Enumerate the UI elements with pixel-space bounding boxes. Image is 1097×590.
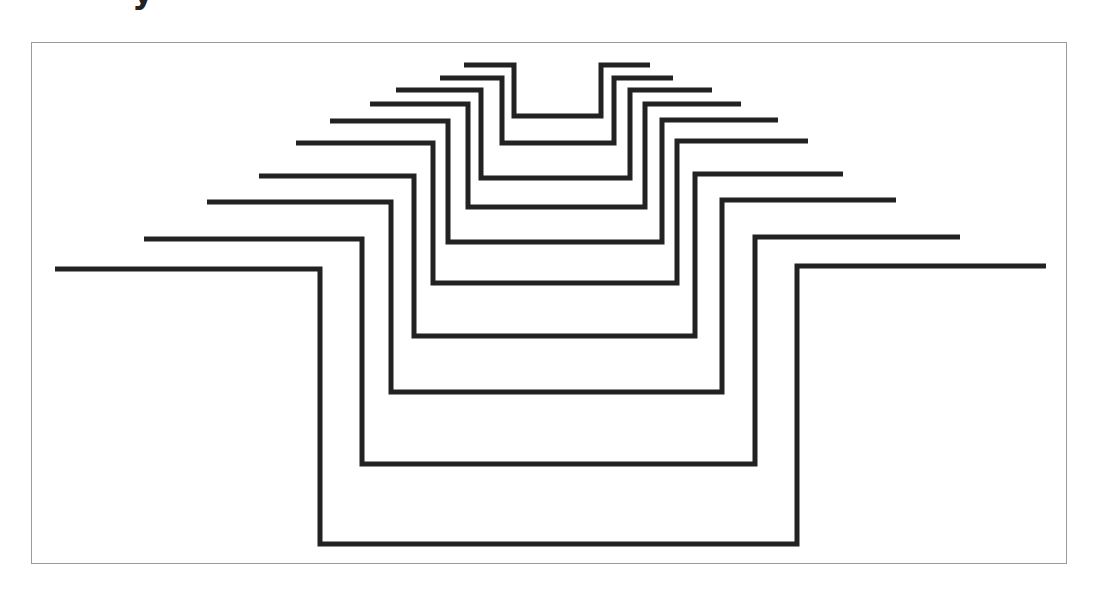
stepped-u-line-8 [207, 200, 896, 392]
stepped-u-line-10 [55, 266, 1046, 544]
stepped-u-line-5 [330, 120, 778, 242]
stepped-u-line-6 [296, 141, 808, 283]
stepped-u-line-1 [464, 65, 650, 116]
line-group [55, 65, 1046, 544]
nested-u-line-diagram [0, 0, 1097, 590]
